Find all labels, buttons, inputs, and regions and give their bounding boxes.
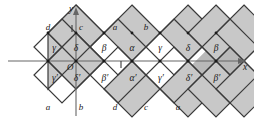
cell-label-lower-6: β′ bbox=[213, 73, 222, 83]
x-axis-label: x bbox=[242, 62, 248, 72]
cell-label-lower-1: δ′ bbox=[74, 73, 81, 83]
y-axis-label: y bbox=[68, 4, 74, 14]
top-vertex-label-0: d bbox=[46, 22, 51, 32]
cell-label-upper-4: γ bbox=[158, 43, 162, 53]
bottom-vertex-label-0: a bbox=[46, 102, 51, 112]
bottom-vertex-label-1: b bbox=[79, 102, 84, 112]
bottom-vertex-label-3: c bbox=[144, 102, 148, 112]
cell-label-upper-5: δ bbox=[186, 43, 191, 53]
top-vertex-label-1: c bbox=[79, 22, 83, 32]
cell-label-upper-0: γ bbox=[52, 43, 56, 53]
cell-label-lower-0: γ′ bbox=[52, 73, 59, 83]
top-vertex-label-3: b bbox=[144, 22, 149, 32]
cell-label-upper-2: β bbox=[101, 43, 107, 53]
bottom-vertex-label-4: a bbox=[176, 102, 181, 112]
lattice-figure: y x O d c a b a b d c a γ δ β α γ δ β γ′… bbox=[0, 0, 254, 127]
cell-label-lower-4: γ′ bbox=[158, 73, 165, 83]
cell-label-upper-6: β bbox=[213, 43, 219, 53]
bottom-vertex-label-2: d bbox=[113, 102, 118, 112]
top-vertex-label-2: a bbox=[113, 22, 118, 32]
cell-label-lower-5: δ′ bbox=[186, 73, 193, 83]
cell-label-upper-1: δ bbox=[74, 43, 79, 53]
cell-label-lower-2: β′ bbox=[101, 73, 110, 83]
cell-label-lower-3: α′ bbox=[129, 73, 137, 83]
origin-label: O bbox=[67, 62, 74, 72]
